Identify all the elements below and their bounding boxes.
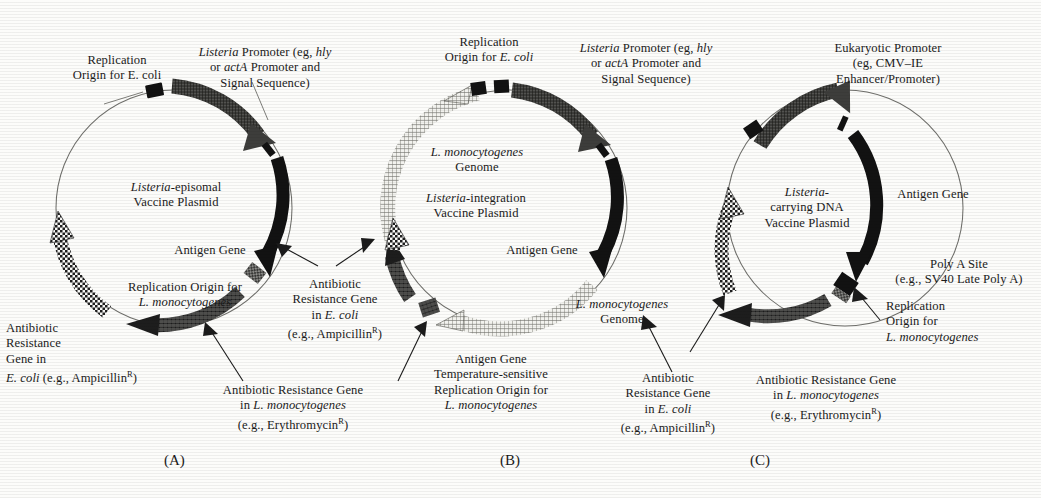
plasmid-c-promoter-antigen-divider	[837, 115, 849, 131]
label-c-eukaryotic-promoter: Eukaryotic Promoter(eg, CMV–IEEnhancer/P…	[798, 26, 978, 87]
label-a-antibiotic-ecoli: AntibioticResistanceGene inE. coli (e.g.…	[6, 306, 156, 386]
label-b-genome-right: L. monocytogenesGenome	[552, 282, 692, 328]
label-b-ts-origin: Antigen GeneTemperature-sensitiveReplica…	[396, 337, 586, 413]
label-a-listeria-promoter: Listeria Promoter (eg, hlyor actA Promot…	[180, 30, 350, 91]
label-c-replication-origin-lmono: ReplicationOrigin forL. monocytogenes	[886, 284, 1016, 345]
figure-root: Replication Origin for E. coli Listeria …	[0, 0, 1041, 498]
panel-id-a: (A)	[164, 452, 185, 469]
label-b-replication-origin-ecoli: ReplicationOrigin for E. coli	[414, 20, 564, 66]
plasmid-b-ori-ecoli-marker-1	[470, 81, 487, 96]
plasmid-a-ori-ecoli-leader	[104, 92, 143, 104]
plasmid-a-ori-ecoli-marker	[145, 82, 164, 98]
label-a-replication-origin-lmono: Replication Origin forL. monocytogenes	[110, 265, 260, 311]
label-b-genome-center: L. monocytogenesGenome	[402, 130, 552, 176]
label-a-antigen-gene: Antigen Gene	[160, 228, 260, 258]
label-c-antibiotic-lmono: Antibiotic Resistance Genein L. monocyto…	[728, 358, 924, 423]
plasmid-c-abr-ecoli-pointer	[690, 300, 722, 352]
label-a-center-title: Listeria-episomalVaccine Plasmid	[106, 165, 246, 211]
label-b-center-title: Listeria-integrationVaccine Plasmid	[400, 176, 552, 222]
plasmid-a-abr-ecoli-arrow	[50, 211, 107, 312]
panel-id-b: (B)	[500, 452, 520, 469]
label-b-antibiotic-ecoli: AntibioticResistance Genein E. coli(e.g.…	[268, 262, 402, 342]
plasmid-a-promoter-arrow	[172, 86, 276, 151]
label-c-antigen-gene: Antigen Gene	[880, 172, 986, 202]
label-a-antibiotic-lmono: Antibiotic Resistance Genein L. monocyto…	[196, 368, 390, 433]
label-b-antigen-gene: Antigen Gene	[490, 228, 594, 258]
label-c-antibiotic-ecoli: AntibioticResistance Genein E. coli(e.g.…	[600, 356, 736, 436]
label-b-listeria-promoter: Listeria Promoter (eg, hlyor actA Promot…	[556, 26, 736, 87]
label-a-replication-origin-ecoli: Replication Origin for E. coli	[42, 38, 192, 84]
panel-id-c: (C)	[750, 452, 770, 469]
label-c-poly-a: Poly A Site(e.g., SV40 Late Poly A)	[878, 242, 1040, 288]
plasmid-c-abr-ecoli-arrow	[720, 187, 744, 293]
plasmid-b-ori-ecoli-marker-2	[494, 80, 510, 94]
label-c-center-title: Listeria-carrying DNAVaccine Plasmid	[742, 170, 872, 231]
plasmid-b-ts-ori-marker	[418, 298, 440, 318]
plasmid-c-abr-lmono-arrow	[718, 300, 828, 327]
